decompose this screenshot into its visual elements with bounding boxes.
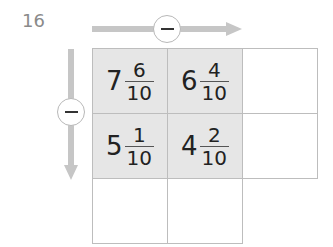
fraction: 4 10	[200, 59, 229, 104]
grid-cell-r2c0-empty[interactable]	[92, 178, 168, 244]
whole-part: 4	[181, 133, 198, 159]
question-number: 16	[22, 10, 45, 31]
grid-cell-r1c1: 4 2 10	[167, 113, 243, 179]
minus-operation-horizontal	[153, 15, 181, 43]
mixed-number: 7 6 10	[106, 59, 154, 104]
numerator: 1	[131, 124, 148, 146]
minus-icon	[65, 111, 78, 113]
minus-operation-vertical	[57, 98, 85, 126]
mixed-number: 5 1 10	[106, 124, 154, 169]
denominator: 10	[200, 146, 229, 169]
whole-part: 6	[181, 68, 198, 94]
grid-cell-r0c2-empty[interactable]	[242, 48, 318, 114]
denominator: 10	[125, 81, 154, 104]
grid-cell-r1c0: 5 1 10	[92, 113, 168, 179]
whole-part: 5	[106, 133, 123, 159]
mixed-number: 4 2 10	[181, 124, 229, 169]
denominator: 10	[125, 146, 154, 169]
arrow-down-icon	[64, 165, 78, 180]
minus-icon	[161, 28, 174, 30]
numerator: 2	[206, 124, 223, 146]
fraction: 6 10	[125, 59, 154, 104]
mixed-number: 6 4 10	[181, 59, 229, 104]
fraction: 2 10	[200, 124, 229, 169]
denominator: 10	[200, 81, 229, 104]
fraction: 1 10	[125, 124, 154, 169]
numerator: 4	[206, 59, 223, 81]
arrow-right-icon	[226, 22, 242, 36]
grid-cell-r1c2-empty[interactable]	[242, 113, 318, 179]
numerator: 6	[131, 59, 148, 81]
grid-cell-r2c1-empty[interactable]	[167, 178, 243, 244]
whole-part: 7	[106, 68, 123, 94]
grid-cell-r0c0: 7 6 10	[92, 48, 168, 114]
grid-cell-r0c1: 6 4 10	[167, 48, 243, 114]
